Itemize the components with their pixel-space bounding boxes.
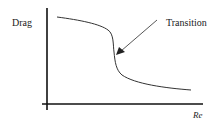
transition-arrow-shaft — [121, 20, 157, 51]
drag-vs-re-diagram: Drag Transition Re — [0, 0, 217, 125]
x-axis-label: Re — [192, 110, 203, 120]
y-axis-label: Drag — [12, 17, 32, 28]
transition-label: Transition — [166, 17, 207, 28]
